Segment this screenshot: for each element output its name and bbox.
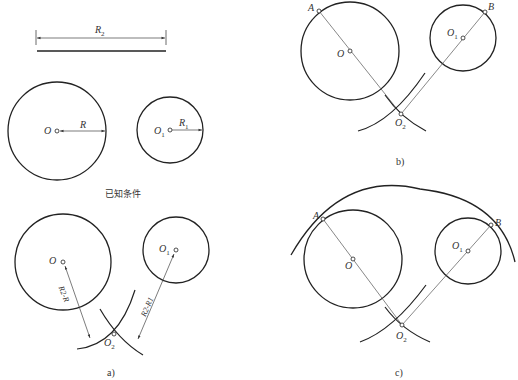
label-r1: R1 <box>179 118 189 131</box>
label-r: R <box>80 120 86 130</box>
label-o: O <box>44 126 51 136</box>
label-o1: O1 <box>154 126 165 139</box>
panel-c-label-o2: O2 <box>396 331 407 344</box>
panel-c-label-o: O <box>345 261 352 271</box>
panel-c-label-o1: O1 <box>452 241 463 254</box>
panel-a-label-o: O <box>49 256 56 266</box>
panel-b-label-a: A <box>308 3 314 13</box>
panel-b-label-b: B <box>488 2 494 12</box>
geometry-drawing <box>0 0 518 380</box>
panel-b-label-o1: O1 <box>447 28 458 41</box>
panel-c-group <box>291 186 515 342</box>
caption-panel-c: c) <box>395 368 403 378</box>
panel-a-label-o1: O1 <box>159 244 170 257</box>
panel-c-label-a: A <box>313 211 319 221</box>
panel-a-group <box>15 214 209 355</box>
label-r2: R2 <box>95 25 105 38</box>
panel-b-label-o2: O2 <box>395 118 406 131</box>
panel-b-group <box>301 2 496 131</box>
caption-panel-a: a) <box>107 368 115 378</box>
known-conditions-group <box>8 30 203 180</box>
panel-c-label-b: B <box>495 218 501 228</box>
panel-a-label-o2: O2 <box>104 338 115 351</box>
caption-known-conditions: 已知条件 <box>105 190 141 199</box>
caption-panel-b: b) <box>396 157 404 167</box>
panel-b-label-o: O <box>337 49 344 59</box>
